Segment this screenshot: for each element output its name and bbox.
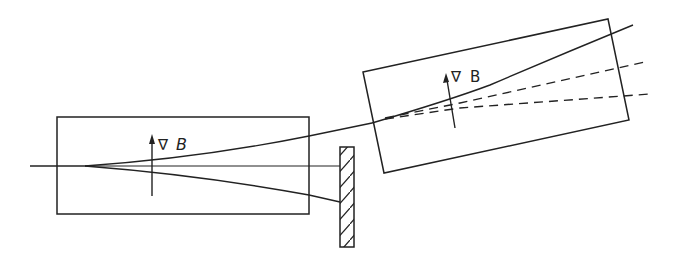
magnet-2-middle-beam	[385, 62, 645, 118]
nabla-label-2: ∇	[450, 68, 462, 86]
lower-beam	[85, 166, 340, 202]
stern-gerlach-diagram: ∇ B ∇ B	[0, 0, 680, 269]
b-label-2: B	[470, 68, 480, 86]
beam-blocker	[340, 147, 354, 247]
gradient-arrow-2	[447, 80, 455, 128]
b-label-1: B	[176, 135, 187, 154]
arrow-head-1-icon	[149, 134, 155, 144]
magnet-2-box	[363, 19, 629, 173]
nabla-label-1: ∇	[157, 136, 169, 154]
arrow-head-2-icon	[443, 73, 449, 83]
upper-beam	[85, 123, 372, 166]
